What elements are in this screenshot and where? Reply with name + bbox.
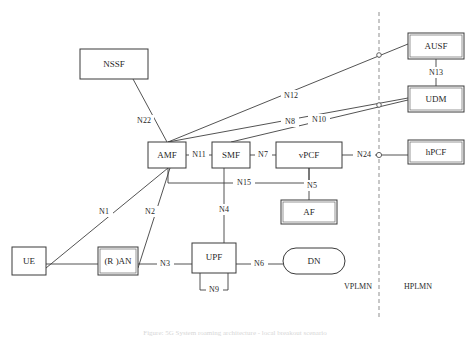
link-label-n10: N10 bbox=[312, 115, 326, 124]
node-dn[interactable]: DN bbox=[283, 248, 345, 274]
link-label-n1: N1 bbox=[99, 207, 109, 216]
node-ausf[interactable]: AUSF bbox=[408, 33, 464, 59]
link-label-n8: N8 bbox=[285, 117, 295, 126]
node-ran-label: (R )AN bbox=[104, 256, 132, 266]
node-amf[interactable]: AMF bbox=[148, 142, 186, 168]
node-af-label: AF bbox=[303, 207, 315, 217]
node-upf[interactable]: UPF bbox=[192, 243, 236, 273]
crossing-marker-n8-n10 bbox=[377, 103, 382, 108]
link-label-n9: N9 bbox=[209, 285, 219, 294]
figure-caption: Figure: 5G System roaming architecture -… bbox=[143, 329, 327, 337]
link-labels-group: N22 N12 N8 N10 N13 N11 N7 N24 N15 N5 N4 … bbox=[96, 67, 446, 295]
link-label-n13: N13 bbox=[429, 68, 443, 77]
node-smf-label: SMF bbox=[222, 150, 240, 160]
node-ue[interactable]: UE bbox=[12, 247, 46, 275]
node-udm-label: UDM bbox=[425, 94, 446, 104]
link-label-n6: N6 bbox=[254, 259, 264, 268]
node-amf-label: AMF bbox=[157, 150, 177, 160]
node-vpcf[interactable]: vPCF bbox=[276, 142, 342, 168]
node-hpcf-label: hPCF bbox=[426, 147, 447, 157]
node-smf[interactable]: SMF bbox=[212, 142, 250, 168]
link-label-n15: N15 bbox=[237, 178, 251, 187]
link-label-n3: N3 bbox=[160, 259, 170, 268]
node-ran[interactable]: (R )AN bbox=[98, 247, 138, 275]
plmn-label-hplmn: HPLMN bbox=[404, 282, 432, 291]
link-label-n22: N22 bbox=[137, 116, 151, 125]
link-label-n4: N4 bbox=[219, 205, 229, 214]
link-label-n2: N2 bbox=[145, 207, 155, 216]
node-dn-label: DN bbox=[308, 256, 321, 266]
node-hpcf[interactable]: hPCF bbox=[408, 140, 464, 164]
plmn-labels-group: VPLMN HPLMN bbox=[344, 282, 432, 291]
network-architecture-diagram: NSSF AMF SMF vPCF hPCF AUSF bbox=[0, 0, 471, 337]
link-label-n11: N11 bbox=[192, 150, 205, 159]
node-vpcf-label: vPCF bbox=[299, 150, 320, 160]
crossing-marker-n12 bbox=[377, 53, 382, 58]
node-upf-label: UPF bbox=[206, 252, 223, 262]
crossing-marker-n24 bbox=[376, 152, 381, 157]
link-label-n7: N7 bbox=[258, 150, 268, 159]
node-nssf[interactable]: NSSF bbox=[80, 49, 148, 79]
link-line-n22 bbox=[133, 79, 167, 142]
node-udm[interactable]: UDM bbox=[408, 86, 464, 112]
node-ue-label: UE bbox=[23, 256, 35, 266]
node-nssf-label: NSSF bbox=[103, 59, 125, 69]
node-ausf-label: AUSF bbox=[424, 41, 447, 51]
link-line-n2 bbox=[138, 168, 170, 268]
plmn-label-vplmn: VPLMN bbox=[344, 282, 372, 291]
node-af[interactable]: AF bbox=[281, 200, 337, 224]
link-label-n5: N5 bbox=[307, 181, 317, 190]
link-label-n12: N12 bbox=[284, 91, 298, 100]
diagram-canvas: NSSF AMF SMF vPCF hPCF AUSF bbox=[0, 0, 471, 337]
link-label-n24: N24 bbox=[357, 150, 371, 159]
